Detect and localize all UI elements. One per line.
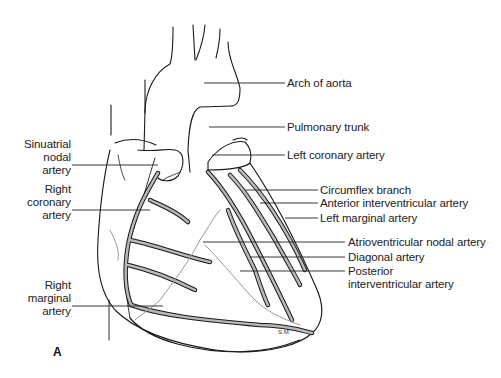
label-circumflex-branch: Circumflex branch (320, 184, 411, 197)
label-line: coronary (0, 196, 71, 209)
signature: S.M. (278, 329, 291, 335)
label-right-marginal-artery: Right marginal artery (0, 279, 71, 318)
panel-label: A (53, 345, 62, 359)
label-posterior-interventricular-artery: Posterior interventricular artery (348, 265, 454, 291)
label-line: nodal (0, 151, 71, 164)
label-arch-of-aorta: Arch of aorta (287, 77, 352, 90)
heart-illustration: S.M. (0, 0, 501, 378)
label-line: artery (0, 305, 71, 318)
label-anterior-interventricular-artery: Anterior interventricular artery (320, 197, 468, 210)
label-atrioventricular-nodal-artery: Atrioventricular nodal artery (348, 236, 486, 249)
label-line: artery (0, 209, 71, 222)
label-right-coronary-artery: Right coronary artery (0, 183, 71, 222)
label-line: Right (0, 279, 71, 292)
label-line: Sinuatrial (0, 138, 71, 151)
label-sinuatrial-nodal-artery: Sinuatrial nodal artery (0, 138, 71, 177)
label-line: marginal (0, 292, 71, 305)
heart-coronary-diagram: S.M. Sinuatrial nodal artery Right coron… (0, 0, 501, 378)
label-diagonal-artery: Diagonal artery (348, 251, 425, 264)
label-pulmonary-trunk: Pulmonary trunk (287, 121, 369, 134)
label-line: artery (0, 164, 71, 177)
label-left-marginal-artery: Left marginal artery (320, 212, 417, 225)
label-line: Posterior (348, 265, 454, 278)
label-left-coronary-artery: Left coronary artery (287, 149, 385, 162)
label-line: interventricular artery (348, 278, 454, 291)
label-line: Right (0, 183, 71, 196)
